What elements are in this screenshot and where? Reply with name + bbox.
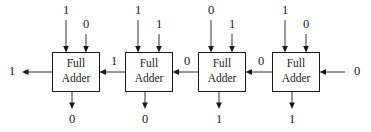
full-adder-1-input-b-wire xyxy=(156,34,162,53)
full-adder-2-input-a-wire xyxy=(208,20,214,53)
full-adder-1-sum-wire xyxy=(142,92,148,110)
carry-label-1-to-0: 1 xyxy=(111,54,117,68)
carry-label-3-to-2: 0 xyxy=(258,54,264,68)
full-adder-1-input-b-label: 1 xyxy=(156,17,162,31)
adder-diagram-canvas: Full Adder 1 0 0 1 Full xyxy=(0,0,371,132)
full-adder-2-input-a-label: 0 xyxy=(208,3,214,17)
initial-carry-in-wire xyxy=(320,69,346,75)
full-adder-2-label-line2: Adder xyxy=(208,72,237,84)
final-carry-out-wire xyxy=(22,69,53,75)
full-adder-0-label-line2: Adder xyxy=(62,72,91,84)
ripple-carry-adder-diagram: Full Adder 1 0 0 1 Full xyxy=(0,0,371,132)
full-adder-0-input-b-label: 0 xyxy=(83,17,89,31)
final-carry-out-label: 1 xyxy=(9,64,15,78)
full-adder-2-sum-wire xyxy=(216,92,222,110)
full-adder-2-label-line1: Full xyxy=(213,57,232,69)
carry-wire-2-to-1 xyxy=(173,69,199,75)
full-adder-3-input-b-label: 0 xyxy=(303,17,309,31)
full-adder-3-sum-label: 1 xyxy=(289,112,295,126)
full-adder-3[interactable]: Full Adder xyxy=(273,53,320,92)
full-adder-3-input-b-wire xyxy=(303,34,309,53)
full-adder-0-label-line1: Full xyxy=(67,57,86,69)
full-adder-2-sum-label: 1 xyxy=(216,112,222,126)
full-adder-2[interactable]: Full Adder xyxy=(199,53,246,92)
full-adder-3-sum-wire xyxy=(289,92,295,110)
full-adder-0-input-b-wire xyxy=(83,34,89,53)
full-adder-2-input-b-label: 1 xyxy=(229,17,235,31)
initial-carry-in-label: 0 xyxy=(354,64,360,78)
full-adder-0-input-a-label: 1 xyxy=(63,3,69,17)
full-adder-3-label-line2: Adder xyxy=(282,72,311,84)
full-adder-1[interactable]: Full Adder xyxy=(126,53,173,92)
full-adder-0[interactable]: Full Adder xyxy=(53,53,100,92)
full-adder-1-label-line2: Adder xyxy=(135,72,164,84)
full-adder-3-label-line1: Full xyxy=(287,57,306,69)
carry-label-2-to-1: 0 xyxy=(184,54,190,68)
full-adder-1-label-line1: Full xyxy=(140,57,159,69)
full-adder-3-input-a-wire xyxy=(282,20,288,53)
full-adder-2-input-b-wire xyxy=(229,34,235,53)
full-adder-1-input-a-wire xyxy=(135,20,141,53)
full-adder-1-sum-label: 0 xyxy=(142,112,148,126)
full-adder-3-input-a-label: 1 xyxy=(282,3,288,17)
full-adder-1-input-a-label: 1 xyxy=(135,3,141,17)
carry-wire-1-to-0 xyxy=(100,69,126,75)
carry-wire-3-to-2 xyxy=(246,69,273,75)
full-adder-0-sum-label: 0 xyxy=(69,112,75,126)
full-adder-0-input-a-wire xyxy=(63,20,69,53)
full-adder-0-sum-wire xyxy=(69,92,75,110)
